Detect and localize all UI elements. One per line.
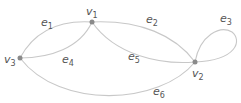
edge-label-e2: e2 [146,13,158,28]
node-v2 [193,60,198,65]
edge-label-e6: e6 [153,85,165,100]
edge-label-e4: e4 [62,53,74,68]
node-label-v2: v2 [192,67,204,82]
edge-e6 [20,58,195,96]
edge-label-e3: e3 [220,12,232,27]
node-label-v1: v1 [86,5,98,20]
edge-label-e1: e1 [41,16,53,31]
edge-e2 [92,22,195,62]
graph-diagram: v1 v2 v3 e1 e2 e3 e4 e5 e6 [0,0,241,103]
node-v1 [90,20,95,25]
node-label-v3: v3 [4,53,16,68]
edge-label-e5: e5 [128,50,140,65]
node-v3 [18,56,23,61]
edge-e4 [20,22,92,58]
edge-e3-loop [195,30,237,62]
